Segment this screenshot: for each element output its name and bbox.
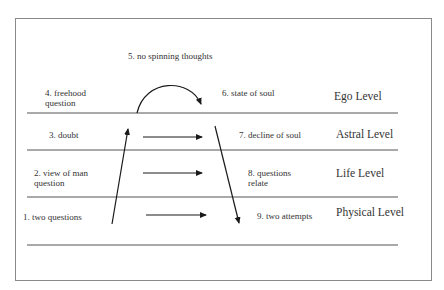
diagram-canvas — [0, 0, 444, 290]
label-line: 8. questions — [248, 168, 291, 178]
curved-arrow — [137, 86, 201, 113]
label-line: question — [45, 98, 86, 108]
horizontal-arrows — [143, 137, 206, 215]
label-state-of-soul: 6. state of soul — [222, 88, 275, 98]
label-two-attempts: 9. two attempts — [257, 211, 312, 221]
label-no-spinning-thoughts: 5. no spinning thoughts — [128, 51, 213, 61]
label-questions-relate: 8. questions relate — [248, 168, 291, 188]
level-label-life: Life Level — [336, 167, 384, 180]
label-line: 2. view of man — [34, 168, 88, 178]
level-label-astral: Astral Level — [336, 128, 393, 141]
label-line: question — [34, 178, 88, 188]
level-label-physical: Physical Level — [336, 206, 404, 219]
label-decline-of-soul: 7. decline of soul — [239, 130, 301, 140]
label-line: relate — [248, 178, 291, 188]
ascending-arrow — [112, 129, 128, 224]
label-doubt: 3. doubt — [49, 130, 79, 140]
label-freehood-question: 4. freehood question — [45, 88, 86, 108]
label-view-of-man-question: 2. view of man question — [34, 168, 88, 188]
label-line: 4. freehood — [45, 88, 86, 98]
descending-arrow — [215, 126, 239, 223]
label-two-questions: 1. two questions — [23, 212, 82, 222]
level-label-ego: Ego Level — [334, 90, 382, 103]
